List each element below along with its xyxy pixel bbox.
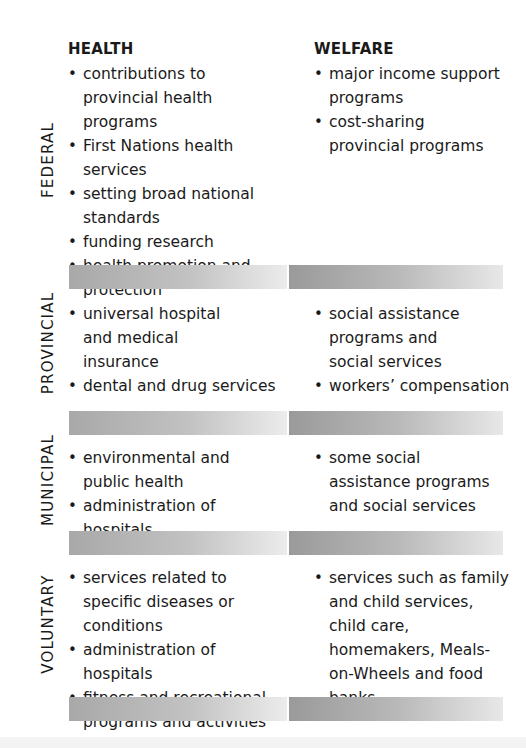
list-item: services such as family and child servic…: [314, 566, 511, 710]
provincial-health-list: universal hospital and medical insurance…: [68, 302, 283, 398]
row-label-municipal: MUNICIPAL: [38, 400, 58, 560]
row-label-provincial: PROVINCIAL: [38, 263, 58, 423]
list-item: dental and drug services: [68, 374, 283, 398]
row-label-federal: FEDERAL: [38, 80, 58, 240]
municipal-welfare-list: some social assistance programs and soci…: [314, 446, 514, 518]
divider-bar-welfare: [289, 265, 503, 289]
row-label-voluntary: VOLUNTARY: [38, 544, 58, 704]
divider-bar-health: [69, 265, 287, 289]
page-edge-band: [0, 737, 526, 748]
list-item: environmental and public health: [68, 446, 273, 494]
column-header-welfare: WELFARE: [314, 40, 394, 58]
list-item: major income support programs: [314, 62, 514, 110]
list-item: cost-sharing provincial programs: [314, 110, 504, 158]
federal-welfare-list: major income support programs cost-shari…: [314, 62, 514, 158]
provincial-welfare-list: social assistance programs and social se…: [314, 302, 514, 398]
list-item: First Nations health services: [68, 134, 283, 182]
list-item: universal hospital and medical insurance: [68, 302, 248, 374]
divider-bar-welfare: [289, 697, 503, 721]
list-item: social assistance programs and social se…: [314, 302, 484, 374]
list-item: administration of hospitals: [68, 638, 283, 686]
list-item: setting broad national standards: [68, 182, 263, 230]
list-item: funding research: [68, 230, 283, 254]
divider-bar-health: [69, 697, 287, 721]
list-item: workers’ compensation: [314, 374, 514, 398]
divider-bar-welfare: [289, 411, 503, 435]
list-item: contributions to provincial health progr…: [68, 62, 268, 134]
list-item: some social assistance programs and soci…: [314, 446, 499, 518]
divider-bar-health: [69, 411, 287, 435]
divider-bar-welfare: [289, 531, 503, 555]
list-item: services related to specific diseases or…: [68, 566, 273, 638]
divider-bar-health: [69, 531, 287, 555]
column-header-health: HEALTH: [68, 40, 133, 58]
voluntary-welfare-list: services such as family and child servic…: [314, 566, 514, 710]
municipal-health-list: environmental and public health administ…: [68, 446, 283, 542]
